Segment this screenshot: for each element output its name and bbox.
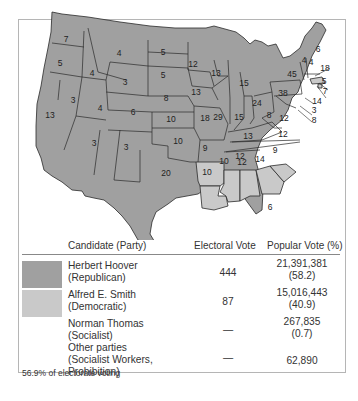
svg-text:4: 4 <box>302 55 307 65</box>
svg-text:4: 4 <box>117 48 122 58</box>
svg-text:9: 9 <box>203 143 208 153</box>
svg-text:18: 18 <box>200 113 210 123</box>
svg-text:10: 10 <box>219 156 229 166</box>
svg-text:12: 12 <box>237 157 247 167</box>
svg-text:8: 8 <box>312 115 317 125</box>
svg-text:6: 6 <box>268 202 273 212</box>
popular-thomas: 267,835 (0.7) <box>261 316 343 340</box>
header-divider <box>22 254 340 255</box>
svg-text:20: 20 <box>161 168 171 178</box>
svg-text:5: 5 <box>322 76 327 86</box>
svg-text:18: 18 <box>320 63 330 73</box>
candidate-hoover: Herbert Hoover (Republican) <box>68 260 138 284</box>
electoral-hoover: 444 <box>201 267 255 278</box>
svg-text:6: 6 <box>316 44 321 54</box>
svg-text:24: 24 <box>252 98 262 108</box>
swatch-republican <box>22 261 62 288</box>
svg-text:13: 13 <box>191 87 201 97</box>
header-candidate: Candidate (Party) <box>68 240 146 251</box>
svg-text:15: 15 <box>239 78 249 88</box>
svg-text:13: 13 <box>211 68 221 78</box>
svg-text:3: 3 <box>92 138 97 148</box>
svg-text:8: 8 <box>164 93 169 103</box>
svg-text:10: 10 <box>166 114 176 124</box>
us-electoral-map: 7 5 13 4 3 4 3 4 3 6 3 5 5 8 10 10 20 12… <box>0 0 358 240</box>
svg-text:15: 15 <box>234 112 244 122</box>
svg-text:12: 12 <box>279 113 289 123</box>
popular-smith: 15,016,443 (40.9) <box>261 287 343 311</box>
svg-text:3: 3 <box>312 105 317 115</box>
svg-text:5: 5 <box>161 47 166 57</box>
electoral-other-parties: — <box>201 352 255 363</box>
svg-text:45: 45 <box>287 69 297 79</box>
svg-text:12: 12 <box>188 59 198 69</box>
popular-hoover: 21,391,381 (58.2) <box>261 258 343 282</box>
svg-text:5: 5 <box>161 70 166 80</box>
svg-text:5: 5 <box>58 58 63 68</box>
svg-text:10: 10 <box>202 167 212 177</box>
electoral-smith: 87 <box>201 296 255 307</box>
svg-text:12: 12 <box>278 129 288 139</box>
svg-text:3: 3 <box>123 77 128 87</box>
svg-text:4: 4 <box>309 57 314 67</box>
svg-text:7: 7 <box>323 86 328 96</box>
svg-text:8: 8 <box>267 110 272 120</box>
candidate-thomas: Norman Thomas (Socialist) <box>68 318 144 342</box>
header-popular-vote: Popular Vote (%) <box>267 240 343 251</box>
svg-text:29: 29 <box>213 112 223 122</box>
popular-other-parties: 62,890 <box>261 355 343 367</box>
svg-text:13: 13 <box>45 110 55 120</box>
svg-text:4: 4 <box>98 103 103 113</box>
candidate-smith: Alfred E. Smith (Democratic) <box>68 289 136 313</box>
svg-text:6: 6 <box>131 107 136 117</box>
svg-text:7: 7 <box>64 34 69 44</box>
electoral-thomas: — <box>201 324 255 335</box>
svg-text:10: 10 <box>173 136 183 146</box>
svg-text:14: 14 <box>255 154 265 164</box>
svg-text:4: 4 <box>90 68 95 78</box>
svg-text:9: 9 <box>273 145 278 155</box>
svg-text:13: 13 <box>243 131 253 141</box>
swatch-democratic <box>22 290 62 317</box>
svg-text:3: 3 <box>71 95 76 105</box>
svg-text:38: 38 <box>278 88 288 98</box>
turnout-note: 56.9% of electorate voting <box>22 368 120 378</box>
svg-text:3: 3 <box>124 142 129 152</box>
header-electoral-vote: Electoral Vote <box>194 240 256 251</box>
